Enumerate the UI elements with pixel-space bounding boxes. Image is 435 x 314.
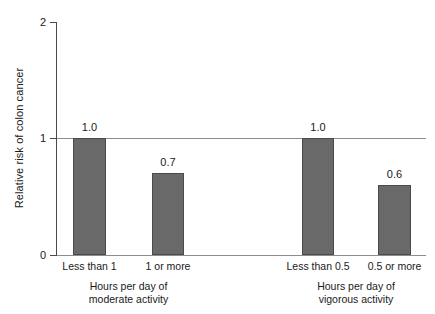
bar-value-moderate-less-than-1: 1.0 xyxy=(65,121,115,133)
bar-vigorous-0-5-or-more xyxy=(378,185,411,255)
x-axis-baseline xyxy=(56,255,426,256)
bar-value-moderate-1-or-more: 0.7 xyxy=(143,156,193,168)
category-label-1-or-more: 1 or more xyxy=(108,260,228,273)
category-label-0-5-or-more: 0.5 or more xyxy=(335,260,435,273)
bar-value-vigorous-less-than-0-5: 1.0 xyxy=(293,121,343,133)
bar-value-vigorous-0-5-or-more: 0.6 xyxy=(370,168,420,180)
group-title-moderate-line2: moderate activity xyxy=(69,293,189,306)
y-tick-mark-2 xyxy=(50,22,57,23)
group-title-moderate-line1: Hours per day of xyxy=(69,280,189,293)
reference-line-at-one xyxy=(56,138,426,139)
y-tick-mark-0 xyxy=(50,255,57,256)
bar-moderate-1-or-more xyxy=(152,173,184,255)
relative-risk-bar-chart: Relative risk of colon cancer 2 1 0 1.0 … xyxy=(0,0,435,314)
y-tick-label-1: 1 xyxy=(0,132,46,144)
y-axis-line xyxy=(56,22,57,256)
y-tick-mark-1 xyxy=(50,138,57,139)
y-tick-label-2: 2 xyxy=(0,16,46,28)
group-title-vigorous-line1: Hours per day of xyxy=(296,280,416,293)
bar-vigorous-less-than-0-5 xyxy=(302,138,334,255)
group-title-vigorous-line2: vigorous activity xyxy=(296,293,416,306)
bar-moderate-less-than-1 xyxy=(73,138,106,255)
